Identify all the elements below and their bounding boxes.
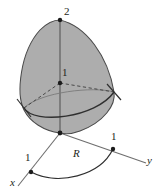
y-unit-label: 1: [111, 131, 117, 142]
center-point-z1: [58, 81, 62, 85]
y-axis-label: y: [147, 155, 152, 166]
z-mid-label: 1: [62, 67, 68, 78]
shaded-solid: [17, 18, 121, 136]
apex-point: [58, 18, 62, 22]
y-unit-point: [111, 147, 115, 151]
origin-point: [58, 131, 63, 136]
x-axis-label: x: [10, 177, 15, 188]
z-apex-label: 2: [64, 6, 70, 17]
x-unit-label: 1: [25, 152, 31, 163]
region-label: R: [73, 148, 80, 159]
x-unit-point: [29, 170, 33, 174]
solid-region-figure: [0, 0, 160, 193]
region-R-group: [29, 147, 115, 179]
